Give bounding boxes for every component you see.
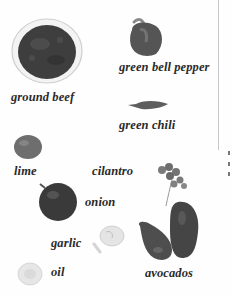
cilantro-label: cilantro (92, 164, 133, 179)
green-chili-image (128, 97, 170, 111)
adjacent-column-mark (228, 162, 230, 166)
adjacent-column-mark (228, 151, 230, 155)
lime-label: lime (14, 164, 37, 179)
ground-beef-image (10, 16, 84, 86)
column-divider (218, 0, 219, 150)
green-bell-pepper-image (126, 16, 166, 58)
onion-label: onion (85, 195, 115, 210)
avocados-image (136, 200, 204, 262)
garlic-image (92, 224, 126, 254)
onion-image (36, 180, 80, 222)
ingredients-page: ground beef green bell pepper green chil… (0, 0, 232, 297)
oil-image (16, 261, 44, 287)
lime-image (13, 134, 43, 160)
green-chili-label: green chili (119, 118, 175, 133)
ground-beef-label: ground beef (11, 90, 74, 105)
oil-label: oil (51, 265, 65, 280)
adjacent-column-mark (228, 172, 230, 176)
green-bell-pepper-label: green bell pepper (119, 60, 210, 75)
garlic-label: garlic (51, 236, 81, 251)
avocados-label: avocados (145, 266, 193, 281)
